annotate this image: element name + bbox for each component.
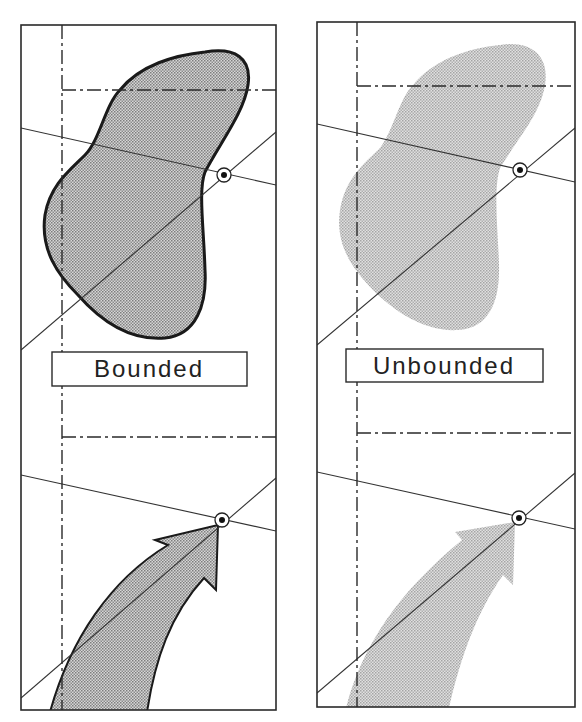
unbounded-bottom-sightline-a (317, 472, 575, 529)
unbounded-label: Unbounded (373, 352, 515, 379)
bounded-arrow (50, 525, 218, 712)
panel-unbounded: Unbounded (317, 22, 575, 712)
bounded-bottom-sightline-a (21, 475, 276, 531)
unbounded-arrow (345, 522, 515, 712)
bounded-label: Bounded (94, 355, 204, 382)
diagram-canvas: Bounded Unbounded (0, 0, 582, 722)
unbounded-region-blob (339, 44, 546, 330)
unbounded-top-target-icon (513, 163, 527, 177)
unbounded-bottom-target-icon (512, 511, 526, 525)
bounded-top-target-icon (217, 168, 231, 182)
panel-bounded: Bounded (21, 25, 276, 712)
bounded-bottom-target-icon (215, 513, 229, 527)
bounded-region-blob (44, 51, 248, 338)
